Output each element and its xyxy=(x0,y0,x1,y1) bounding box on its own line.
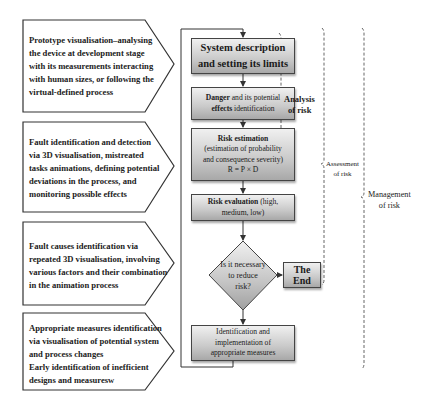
text-line: implementation of xyxy=(215,338,271,349)
formula: R = P × D xyxy=(228,165,259,176)
label-assessment-of-risk: Assessment of risk xyxy=(326,159,359,179)
brace-assessment xyxy=(321,28,324,285)
text-line: tasks animations, defining potential xyxy=(29,162,159,175)
text-line: monitoring possible effects xyxy=(29,188,159,201)
left-panel-appropriate-measures: Appropriate measures identification via … xyxy=(29,322,162,387)
text-line: of risk xyxy=(284,105,315,116)
text: and its potential xyxy=(230,93,280,102)
box-system-description: System description and setting its limit… xyxy=(191,38,295,74)
text-line: to reduce xyxy=(209,270,277,281)
text-line: (estimation of probability xyxy=(204,144,282,155)
text-line: with its measurements interacting xyxy=(29,60,154,73)
text-line: Prototype visualisation–analysing xyxy=(29,34,154,47)
text-line: designs and measuresw xyxy=(29,374,162,387)
text-line: risk? xyxy=(209,281,277,292)
text-line: of risk xyxy=(368,200,411,211)
text-line: Identification and xyxy=(216,327,270,338)
text-line: The End xyxy=(284,264,320,286)
text-line: Early identification of inefficient xyxy=(29,361,162,374)
text-line: via 3D visualisation, mistreated xyxy=(29,149,159,162)
text-line: and setting its limits xyxy=(198,56,288,72)
text-line: and process changes xyxy=(29,348,162,361)
text-bold: Risk evaluation xyxy=(208,197,258,206)
text-line: appropriate measures xyxy=(211,348,276,359)
box-risk-estimation: Risk estimation (estimation of probabili… xyxy=(191,128,295,181)
text-line: Fault identification and detection xyxy=(29,136,159,149)
text-line: Analysis xyxy=(284,94,315,105)
box-the-end: The End xyxy=(283,262,321,288)
left-panel-fault-causes: Fault causes identification via repeated… xyxy=(29,240,167,292)
text-line: repeated 3D visualisation, involving xyxy=(29,253,167,266)
label-management-of-risk: Management of risk xyxy=(368,189,411,211)
text-line: Appropriate measures identification xyxy=(29,322,162,335)
box-risk-evaluation: Risk evaluation (high, medium, low) xyxy=(191,194,295,221)
text-line: with human sizes, or following the xyxy=(29,73,154,86)
text-line: deviations in the process, and xyxy=(29,175,159,188)
text-line: Assessment xyxy=(326,159,359,169)
text-line: and consequence severity) xyxy=(203,155,283,166)
text-line: Management xyxy=(368,189,411,200)
text: identification xyxy=(232,104,274,113)
box-identification-measures: Identification and implementation of app… xyxy=(191,325,295,361)
brace-management xyxy=(361,28,364,369)
text-line: via visualisation of potential system xyxy=(29,335,162,348)
text-line: in the animation process xyxy=(29,279,167,292)
text-line: of risk xyxy=(326,169,359,179)
text-line: medium, low) xyxy=(222,208,265,219)
box-danger-identification: Danger and its potential effects identif… xyxy=(191,87,295,120)
text-line: Is it necessary xyxy=(209,259,277,270)
text-line: Fault causes identification via xyxy=(29,240,167,253)
left-panel-fault-identification: Fault identification and detection via 3… xyxy=(29,136,159,201)
text-bold: Danger xyxy=(206,93,230,102)
label-analysis-of-risk: Analysis of risk xyxy=(284,94,315,116)
text: (high, xyxy=(258,197,278,206)
text-line: virtual-defined process xyxy=(29,86,154,99)
text-bold: effects xyxy=(211,104,232,113)
left-panel-prototype: Prototype visualisation–analysing the de… xyxy=(29,34,154,99)
text-line: Risk estimation xyxy=(218,134,268,145)
text-line: various factors and their combination xyxy=(29,266,167,279)
text-line: the device at development stage xyxy=(29,47,154,60)
decision-text: Is it necessary to reduce risk? xyxy=(209,259,277,292)
text-line: System description xyxy=(201,40,286,56)
